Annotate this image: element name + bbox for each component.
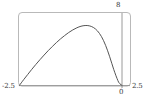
plot-canvas [0, 0, 147, 100]
x-axis-min-label: -2.5 [2, 82, 15, 90]
x-axis-zero-label: 0 [119, 88, 123, 96]
x-axis-max-label: 2.5 [132, 82, 143, 90]
y-axis-max-label: 8 [116, 1, 120, 9]
plot-background [0, 0, 147, 100]
plot-container: 8 -2.5 0 2.5 [0, 0, 147, 100]
